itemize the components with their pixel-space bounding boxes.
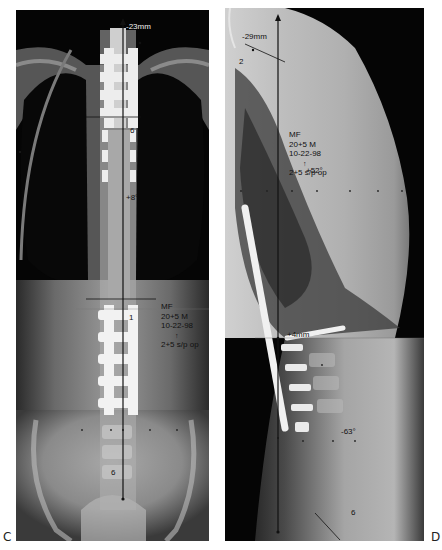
lat-mid-offset-label: +4mm (287, 330, 309, 340)
patient-age-sex: 20+5 M (289, 140, 327, 150)
ap-patient-info-block: MF 20+5 M 10-22-98 ↑ 2+5 s/p op (161, 302, 199, 350)
ap-bottom-level-label: 6 (111, 468, 115, 478)
lat-top-offset-label: -29mm (242, 32, 267, 42)
patient-id: MF (289, 130, 327, 140)
patient-age-sex: 20+5 M (161, 312, 199, 322)
patient-id: MF (161, 302, 199, 312)
panel-label-d: D (431, 530, 440, 544)
arrow-icon: ↑ (161, 331, 199, 341)
panel-label-c: C (3, 530, 11, 544)
lat-bottom-level-label: 6 (351, 508, 355, 518)
exam-date: 10-22-98 (289, 149, 327, 159)
xray-image-ap (16, 10, 209, 541)
lat-lordosis-angle-label: -63° (341, 427, 356, 437)
exam-date: 10-22-98 (161, 321, 199, 331)
xray-panel-c: -23mm 6 +8° 1 6 MF 20+5 M 10-22-98 ↑ 2+5… (16, 10, 209, 541)
xray-panel-d: -29mm 2 +52° MF 20+5 M 10-22-98 ↑ 2+5 s/… (225, 8, 424, 541)
arrow-icon: ↑ (289, 159, 327, 169)
ap-angle-label: +8° (126, 193, 138, 203)
lat-patient-info-block: MF 20+5 M 10-22-98 ↑ 2+5 s/p op (289, 130, 327, 178)
ap-upper-level-label: 6 (130, 126, 134, 136)
ap-lower-level-label: 1 (129, 313, 133, 323)
xray-image-lateral (225, 8, 424, 541)
post-op-status: 2+5 s/p op (289, 168, 327, 178)
lat-upper-level-label: 2 (239, 57, 243, 67)
ap-top-offset-label: -23mm (126, 22, 151, 32)
post-op-status: 2+5 s/p op (161, 340, 199, 350)
